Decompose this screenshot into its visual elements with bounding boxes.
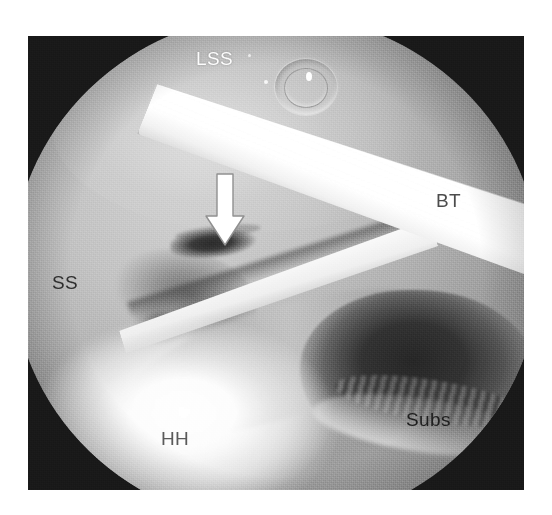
page-canvas: LSS BT SS HH Subs xyxy=(0,0,552,515)
fluid-bubble-inner-icon xyxy=(284,68,328,108)
humeral-head-highlight xyxy=(40,314,340,490)
label-hh: HH xyxy=(161,428,189,450)
lesion-edge xyxy=(175,222,262,243)
label-lss: LSS xyxy=(196,48,233,70)
dark-lesion xyxy=(169,224,263,262)
specular-highlight xyxy=(248,54,251,57)
specular-highlight xyxy=(264,80,268,84)
label-bt: BT xyxy=(436,190,461,212)
specular-highlight xyxy=(306,72,312,81)
label-subs: Subs xyxy=(406,409,451,431)
fluid-bubble-icon xyxy=(274,58,338,116)
label-ss: SS xyxy=(52,272,78,294)
arthroscopy-photograph: LSS BT SS HH Subs xyxy=(28,36,524,490)
